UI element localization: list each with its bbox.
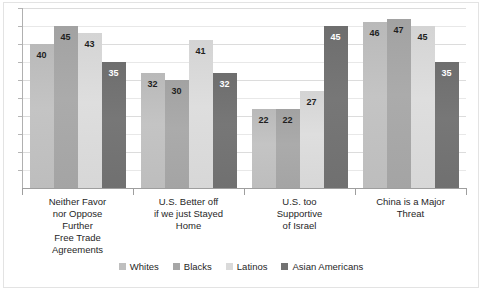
bar-blacks[interactable]: 45 — [54, 8, 78, 188]
bar-asian-americans[interactable]: 35 — [435, 8, 459, 188]
bar-rect[interactable] — [141, 73, 165, 188]
bar-group: 32304132 — [141, 8, 237, 188]
bar-value-label: 22 — [252, 116, 276, 125]
bar-whites[interactable]: 32 — [141, 8, 165, 188]
legend-item-whites[interactable]: Whites — [119, 262, 159, 272]
category-label: China is a MajorThreat — [355, 196, 466, 220]
bar-rect[interactable] — [324, 26, 348, 188]
legend-swatch-icon — [226, 263, 233, 270]
bar-latinos[interactable]: 43 — [78, 8, 102, 188]
bar-chart: 40454335323041322222274546474535 Neither… — [0, 0, 482, 292]
category-label-line: Agreements — [22, 244, 133, 256]
legend-item-latinos[interactable]: Latinos — [226, 262, 268, 272]
bar-value-label: 47 — [387, 26, 411, 35]
bar-group: 40454335 — [30, 8, 126, 188]
bar-value-label: 45 — [54, 33, 78, 42]
bar-value-label: 30 — [165, 87, 189, 96]
bar-value-label: 46 — [363, 29, 387, 38]
bar-value-label: 45 — [324, 33, 348, 42]
bar-rect[interactable] — [411, 26, 435, 188]
bar-value-label: 22 — [276, 116, 300, 125]
bar-blacks[interactable]: 47 — [387, 8, 411, 188]
bar-rect[interactable] — [165, 80, 189, 188]
bar-value-label: 32 — [141, 80, 165, 89]
bar-value-label: 43 — [78, 40, 102, 49]
category-label-line: China is a Major — [355, 196, 466, 208]
legend-label: Blacks — [184, 262, 212, 272]
x-axis-tick — [355, 188, 356, 195]
category-label: Neither Favornor OpposeFurtherFree Trade… — [22, 196, 133, 256]
category-labels: Neither Favornor OpposeFurtherFree Trade… — [22, 196, 466, 258]
bars-layer: 40454335323041322222274546474535 — [22, 8, 466, 188]
category-label-line: U.S. Better off — [133, 196, 244, 208]
legend-label: Whites — [130, 262, 159, 272]
legend-swatch-icon — [119, 263, 126, 270]
category-label-line: Further — [22, 220, 133, 232]
bar-rect[interactable] — [30, 44, 54, 188]
bar-latinos[interactable]: 45 — [411, 8, 435, 188]
category-label-line: U.S. too — [244, 196, 355, 208]
bar-blacks[interactable]: 22 — [276, 8, 300, 188]
x-axis-tick — [22, 188, 23, 195]
legend-swatch-icon — [173, 263, 180, 270]
category-label-line: if we just Stayed — [133, 208, 244, 220]
category-label-line: nor Oppose — [22, 208, 133, 220]
bar-rect[interactable] — [363, 22, 387, 188]
bar-rect[interactable] — [78, 33, 102, 188]
bar-value-label: 35 — [435, 69, 459, 78]
x-axis-tick — [133, 188, 134, 195]
bar-asian-americans[interactable]: 32 — [213, 8, 237, 188]
bar-blacks[interactable]: 30 — [165, 8, 189, 188]
bar-latinos[interactable]: 41 — [189, 8, 213, 188]
legend-label: Asian Americans — [292, 262, 363, 272]
x-axis-tick — [244, 188, 245, 195]
legend-label: Latinos — [237, 262, 268, 272]
category-label-line: Neither Favor — [22, 196, 133, 208]
bar-asian-americans[interactable]: 45 — [324, 8, 348, 188]
bar-whites[interactable]: 40 — [30, 8, 54, 188]
bar-value-label: 41 — [189, 47, 213, 56]
plot-area: 40454335323041322222274546474535 — [22, 8, 466, 188]
bar-group: 22222745 — [252, 8, 348, 188]
legend-swatch-icon — [281, 263, 288, 270]
category-label-line: of Israel — [244, 220, 355, 232]
bar-asian-americans[interactable]: 35 — [102, 8, 126, 188]
legend-item-asian-americans[interactable]: Asian Americans — [281, 262, 363, 272]
bar-rect[interactable] — [387, 19, 411, 188]
bar-whites[interactable]: 22 — [252, 8, 276, 188]
bar-whites[interactable]: 46 — [363, 8, 387, 188]
category-label: U.S. Better offif we just StayedHome — [133, 196, 244, 232]
bar-value-label: 27 — [300, 98, 324, 107]
category-label-line: Free Trade — [22, 232, 133, 244]
bar-group: 46474535 — [363, 8, 459, 188]
category-label-line: Home — [133, 220, 244, 232]
category-label: U.S. tooSupportiveof Israel — [244, 196, 355, 232]
bar-rect[interactable] — [189, 40, 213, 188]
x-axis-tick — [466, 188, 467, 195]
bar-rect[interactable] — [102, 62, 126, 188]
bar-value-label: 45 — [411, 33, 435, 42]
bar-value-label: 32 — [213, 80, 237, 89]
bar-rect[interactable] — [213, 73, 237, 188]
category-label-line: Supportive — [244, 208, 355, 220]
chart-legend: WhitesBlacksLatinosAsian Americans — [0, 262, 482, 272]
legend-item-blacks[interactable]: Blacks — [173, 262, 212, 272]
bar-rect[interactable] — [435, 62, 459, 188]
bar-rect[interactable] — [54, 26, 78, 188]
bar-latinos[interactable]: 27 — [300, 8, 324, 188]
bar-value-label: 40 — [30, 51, 54, 60]
bar-value-label: 35 — [102, 69, 126, 78]
category-label-line: Threat — [355, 208, 466, 220]
